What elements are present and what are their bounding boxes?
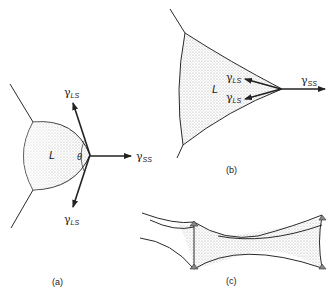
- ls-subscript: LS: [71, 219, 80, 226]
- grain-boundary-upper-a: [10, 84, 33, 122]
- gamma-ls-lower-label-a: γLS: [64, 214, 79, 226]
- panel-label-c: (c): [226, 277, 237, 286]
- gamma-symbol: γ: [136, 150, 143, 163]
- gamma-ss-label-b: γSS: [301, 75, 317, 87]
- grain-boundary-upper-b: [170, 9, 185, 33]
- gamma-symbol: γ: [301, 74, 308, 87]
- grain-boundary-lower-a: [11, 190, 33, 228]
- gamma-ss-label-a: γSS: [136, 151, 152, 163]
- panel-label-b: (b): [226, 166, 237, 175]
- ls-subscript: LS: [233, 97, 242, 104]
- diagram-svg: [0, 0, 333, 291]
- liquid-pocket-b: [179, 33, 282, 145]
- grain-boundary-lower-b: [177, 145, 183, 158]
- theta-label: θ: [77, 153, 82, 162]
- gamma-symbol: γ: [226, 91, 233, 104]
- gamma-symbol: γ: [226, 71, 233, 84]
- gamma-ls-upper-label-a: γLS: [64, 87, 79, 99]
- liquid-label-a: L: [49, 150, 55, 161]
- ls-subscript: LS: [233, 77, 242, 84]
- ss-subscript: SS: [143, 156, 152, 163]
- panel-a-drawing: [10, 84, 131, 228]
- gamma-ls-lower-label-b: γLS: [226, 92, 241, 104]
- ss-subscript: SS: [308, 80, 317, 87]
- gamma-symbol: γ: [64, 213, 71, 226]
- liquid-label-b: L: [212, 84, 218, 95]
- gamma-ls-upper-label-b: γLS: [226, 72, 241, 84]
- panel-c-drawing: [140, 213, 326, 269]
- ls-subscript: LS: [71, 92, 80, 99]
- gamma-symbol: γ: [64, 86, 71, 99]
- figure-canvas: γLS γLS γSS L θ (a) γLS γLS γSS L (b) (c…: [0, 0, 333, 291]
- panel-label-a: (a): [52, 278, 63, 287]
